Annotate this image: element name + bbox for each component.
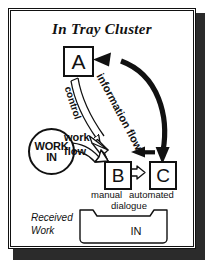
work-in-label-in: IN — [46, 152, 57, 163]
flow-label: flow — [64, 145, 86, 157]
diagram-canvas: In Tray Cluster — [9, 9, 195, 248]
automated-label: automated — [129, 189, 174, 200]
dialogue-arrow — [130, 166, 145, 179]
manual-label: manual — [91, 189, 122, 200]
received-work-line1: Received — [31, 212, 73, 223]
information-flow-label: information flow — [94, 71, 145, 152]
diagram-card: In Tray Cluster — [8, 8, 196, 249]
received-work-label: Received Work — [31, 212, 73, 237]
diagram-title: In Tray Cluster — [9, 21, 195, 38]
in-tray-label: IN — [88, 225, 184, 237]
node-box-b[interactable]: B — [104, 161, 132, 190]
work-label: work — [64, 131, 90, 143]
received-work-line2: Work — [31, 225, 54, 236]
node-box-c[interactable]: C — [149, 161, 177, 190]
node-box-a[interactable]: A — [63, 46, 94, 77]
dialogue-label: dialogue — [111, 200, 147, 211]
diagram-figure: In Tray Cluster — [0, 0, 208, 263]
control-label: control — [63, 85, 84, 121]
